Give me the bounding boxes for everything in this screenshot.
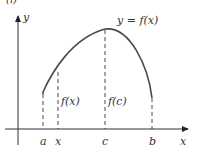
function-diagram: (i) y x y = f(x) f(x) f(c) a x c b <box>0 0 208 153</box>
tick-label-x: x <box>55 135 62 148</box>
figure-corner-label: (i) <box>6 0 17 5</box>
curve-label: y = f(x) <box>116 14 158 27</box>
y-axis-label: y <box>22 11 30 24</box>
height-label-fx: f(x) <box>60 95 80 108</box>
tick-label-c: c <box>102 135 108 148</box>
tick-label-b: b <box>149 135 156 148</box>
function-curve <box>43 29 152 98</box>
x-axis-label: x <box>180 135 187 148</box>
height-label-fc: f(c) <box>107 95 127 108</box>
tick-label-a: a <box>40 135 47 148</box>
